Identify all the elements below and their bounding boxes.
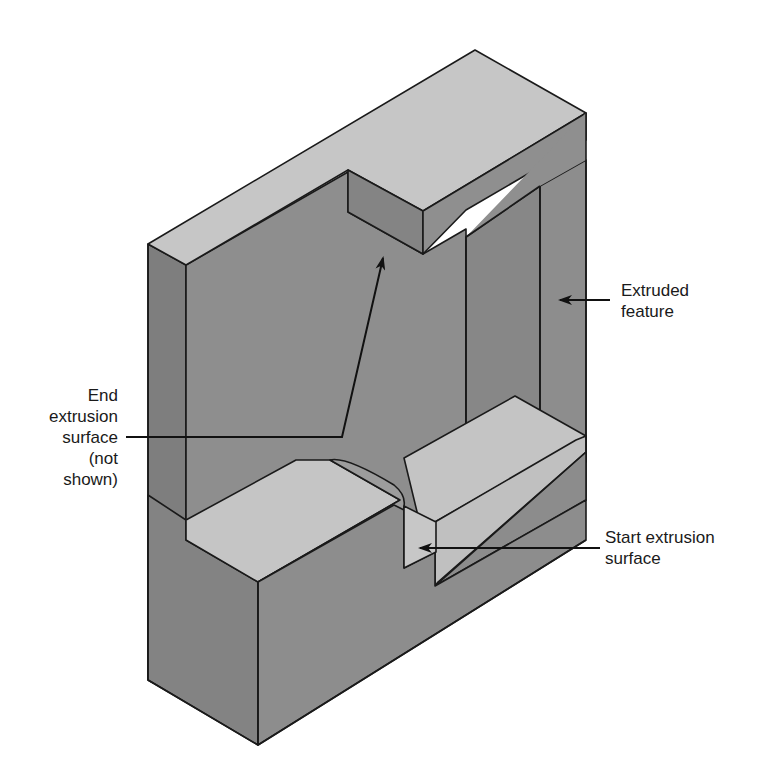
label-end-extrusion-surface: End extrusion surface (not shown) <box>0 385 118 490</box>
label-line: extrusion <box>0 406 118 427</box>
label-line: surface <box>0 427 118 448</box>
label-line: feature <box>621 301 689 322</box>
label-line: Start extrusion <box>605 527 715 548</box>
label-line: (not <box>0 448 118 469</box>
label-start-extrusion-surface: Start extrusion surface <box>605 527 715 569</box>
part-body <box>148 50 586 745</box>
label-line: surface <box>605 548 715 569</box>
label-extruded-feature: Extruded feature <box>621 280 689 322</box>
label-line: shown) <box>0 469 118 490</box>
label-line: End <box>0 385 118 406</box>
label-line: Extruded <box>621 280 689 301</box>
